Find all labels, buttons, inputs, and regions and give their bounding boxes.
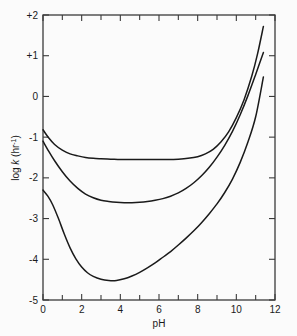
y-tick-label: +1	[27, 50, 39, 61]
y-tick-label: -2	[29, 172, 38, 183]
chart-figure: 024681012 -5-4-3-2-10+1+2 pH log k (hr-1…	[0, 0, 297, 336]
x-tick-label: 8	[195, 304, 201, 315]
cut-off-title	[120, 0, 270, 1]
y-tick-label: -5	[29, 295, 38, 306]
x-tick-label: 0	[40, 304, 46, 315]
x-tick-label: 12	[269, 304, 281, 315]
y-tick-label: 0	[32, 91, 38, 102]
x-axis-title: pH	[153, 318, 166, 329]
x-tick-label: 2	[79, 304, 85, 315]
x-tick-label: 4	[118, 304, 124, 315]
ph-rate-profile-chart: 024681012 -5-4-3-2-10+1+2 pH log k (hr-1…	[0, 0, 297, 336]
y-tick-label: -4	[29, 254, 38, 265]
x-tick-label: 6	[156, 304, 162, 315]
chart-background	[0, 0, 297, 336]
y-tick-label: -1	[29, 132, 38, 143]
y-tick-label: -3	[29, 213, 38, 224]
x-tick-label: 10	[231, 304, 243, 315]
y-tick-label: +2	[27, 10, 39, 21]
